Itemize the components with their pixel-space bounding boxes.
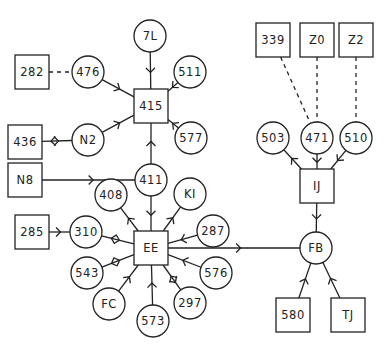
- node-Z2: Z2: [339, 23, 373, 57]
- edge-297-EE: [163, 265, 181, 290]
- node-476: 476: [72, 56, 104, 88]
- node-label: 287: [201, 224, 224, 238]
- edge-EE-K1: [163, 207, 180, 231]
- node-TJ: TJ: [331, 298, 365, 332]
- node-576: 576: [200, 257, 232, 289]
- node-label: IJ: [313, 179, 321, 193]
- node-408: 408: [95, 179, 127, 211]
- edge-IJ-503: [284, 150, 302, 169]
- edge-7L-415: [150, 52, 151, 89]
- node-label: 411: [139, 173, 162, 187]
- edge-TJ-FB: [323, 262, 340, 298]
- node-577: 577: [175, 122, 207, 154]
- node-282: 282: [15, 55, 49, 89]
- node-511: 511: [174, 56, 206, 88]
- node-label: 471: [305, 131, 328, 145]
- node-573: 573: [137, 305, 169, 337]
- edge-436-N2: [42, 141, 72, 142]
- node-label: 503: [261, 131, 284, 145]
- node-FB: FB: [300, 232, 332, 264]
- node-label: 282: [20, 65, 43, 79]
- node-N8: N8: [8, 163, 42, 197]
- node-label: N8: [17, 173, 34, 187]
- node-339: 339: [256, 23, 290, 57]
- node-label: 577: [179, 131, 202, 145]
- node-label: 436: [13, 135, 36, 149]
- node-label: 408: [99, 188, 122, 202]
- node-label: 576: [204, 266, 227, 280]
- node-IJ: IJ: [300, 169, 334, 203]
- node-label: 573: [141, 314, 164, 328]
- node-label: 580: [281, 308, 304, 322]
- node-436: 436: [8, 125, 42, 159]
- node-label: 7L: [143, 29, 158, 43]
- node-580: 580: [276, 298, 310, 332]
- node-label: 510: [344, 131, 367, 145]
- node-label: Z0: [309, 33, 325, 47]
- node-7L: 7L: [134, 20, 166, 52]
- node-label: Z2: [348, 33, 364, 47]
- edge-FC-EE: [119, 265, 139, 291]
- node-label: 543: [75, 266, 98, 280]
- edge-339-471: [281, 57, 311, 123]
- node-471: 471: [301, 122, 333, 154]
- node-415: 415: [134, 89, 168, 123]
- node-543: 543: [71, 257, 103, 289]
- node-label: 285: [20, 225, 43, 239]
- node-label: KI: [184, 187, 196, 201]
- node-411: 411: [135, 164, 167, 196]
- node-label: N2: [80, 133, 97, 147]
- node-287: 287: [197, 215, 229, 247]
- node-label: 511: [178, 65, 201, 79]
- edge-EE-408: [121, 208, 139, 231]
- node-label: EE: [143, 241, 159, 255]
- node-label: 476: [76, 65, 99, 79]
- node-285: 285: [15, 215, 49, 249]
- node-label: 297: [178, 296, 201, 310]
- edge-476-415: [102, 80, 134, 97]
- node-label: 339: [261, 33, 284, 47]
- node-Z0: Z0: [300, 23, 334, 57]
- node-label: FB: [308, 241, 324, 255]
- node-FC: FC: [93, 288, 125, 320]
- node-297: 297: [174, 287, 206, 319]
- node-N2: N2: [72, 124, 104, 156]
- node-510: 510: [340, 122, 372, 154]
- nodes-layer: 7L282476511415436N2577N8411408KI28531028…: [8, 20, 373, 337]
- node-503: 503: [257, 122, 289, 154]
- network-diagram: 7L282476511415436N2577N8411408KI28531028…: [0, 0, 387, 358]
- node-label: TJ: [341, 308, 353, 322]
- node-label: FC: [101, 297, 117, 311]
- edge-N2-415: [102, 115, 134, 132]
- node-K1: KI: [174, 178, 206, 210]
- node-label: 310: [74, 225, 97, 239]
- node-label: 415: [139, 99, 162, 113]
- node-310: 310: [70, 216, 102, 248]
- edge-573-EE: [151, 265, 152, 305]
- node-EE: EE: [134, 231, 168, 265]
